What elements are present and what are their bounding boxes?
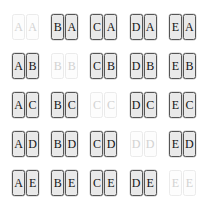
grid-cell-BC[interactable]: BC bbox=[45, 85, 84, 124]
tile-left[interactable]: C bbox=[90, 14, 103, 40]
grid-cell-EB[interactable]: EB bbox=[163, 46, 202, 85]
tile-pair: AB bbox=[12, 53, 39, 79]
tile-left[interactable]: E bbox=[169, 14, 182, 40]
tile-right[interactable]: A bbox=[65, 14, 78, 40]
grid-cell-DD: DD bbox=[124, 125, 163, 164]
tile-right[interactable]: C bbox=[26, 92, 39, 118]
grid-cell-BB: BB bbox=[45, 46, 84, 85]
tile-left[interactable]: B bbox=[51, 14, 64, 40]
tile-left: E bbox=[169, 170, 182, 196]
grid-cell-DC[interactable]: DC bbox=[124, 85, 163, 124]
tile-left[interactable]: A bbox=[12, 170, 25, 196]
grid-cell-DE[interactable]: DE bbox=[124, 164, 163, 203]
tile-right: C bbox=[104, 92, 117, 118]
tile-right[interactable]: A bbox=[144, 14, 157, 40]
tile-right[interactable]: D bbox=[183, 131, 196, 157]
tile-left[interactable]: C bbox=[90, 131, 103, 157]
grid-cell-BE[interactable]: BE bbox=[45, 164, 84, 203]
grid-cell-AB[interactable]: AB bbox=[6, 46, 45, 85]
tile-left[interactable]: A bbox=[12, 92, 25, 118]
tile-right[interactable]: E bbox=[104, 170, 117, 196]
tile-right: E bbox=[183, 170, 196, 196]
tile-pair: EA bbox=[169, 14, 196, 40]
grid-cell-CE[interactable]: CE bbox=[84, 164, 123, 203]
grid-cell-CA[interactable]: CA bbox=[84, 7, 123, 46]
tile-pair: CE bbox=[90, 170, 117, 196]
grid-cell-BD[interactable]: BD bbox=[45, 125, 84, 164]
tile-left[interactable]: A bbox=[12, 131, 25, 157]
grid-cell-CB[interactable]: CB bbox=[84, 46, 123, 85]
tile-right[interactable]: C bbox=[65, 92, 78, 118]
tile-pair: CC bbox=[90, 92, 117, 118]
tile-left[interactable]: C bbox=[90, 170, 103, 196]
tile-pair: BB bbox=[51, 53, 78, 79]
letter-pair-grid: AABACADAEAABBBCBDBEBACBCCCDCECADBDCDDDED… bbox=[0, 0, 208, 209]
tile-right: D bbox=[144, 131, 157, 157]
tile-right[interactable]: E bbox=[144, 170, 157, 196]
tile-right[interactable]: B bbox=[144, 53, 157, 79]
grid-cell-DA[interactable]: DA bbox=[124, 7, 163, 46]
tile-right[interactable]: C bbox=[144, 92, 157, 118]
grid-cell-AE[interactable]: AE bbox=[6, 164, 45, 203]
tile-pair: BA bbox=[51, 14, 78, 40]
tile-left[interactable]: A bbox=[12, 53, 25, 79]
tile-right[interactable]: E bbox=[26, 170, 39, 196]
grid-cell-CC: CC bbox=[84, 85, 123, 124]
grid-cell-EA[interactable]: EA bbox=[163, 7, 202, 46]
tile-pair: BC bbox=[51, 92, 78, 118]
tile-pair: DB bbox=[130, 53, 157, 79]
tile-right[interactable]: D bbox=[26, 131, 39, 157]
tile-left[interactable]: D bbox=[130, 14, 143, 40]
tile-right[interactable]: A bbox=[104, 14, 117, 40]
tile-pair: AD bbox=[12, 131, 39, 157]
tile-pair: DD bbox=[130, 131, 157, 157]
tile-pair: EC bbox=[169, 92, 196, 118]
tile-left[interactable]: C bbox=[90, 53, 103, 79]
tile-left[interactable]: B bbox=[51, 92, 64, 118]
grid-cell-DB[interactable]: DB bbox=[124, 46, 163, 85]
grid-cell-AD[interactable]: AD bbox=[6, 125, 45, 164]
grid-cell-CD[interactable]: CD bbox=[84, 125, 123, 164]
tile-right[interactable]: C bbox=[183, 92, 196, 118]
tile-left[interactable]: B bbox=[51, 170, 64, 196]
tile-pair: EE bbox=[169, 170, 196, 196]
tile-left: A bbox=[12, 14, 25, 40]
grid-cell-AC[interactable]: AC bbox=[6, 85, 45, 124]
tile-pair: AE bbox=[12, 170, 39, 196]
tile-right[interactable]: B bbox=[26, 53, 39, 79]
tile-right[interactable]: E bbox=[65, 170, 78, 196]
tile-left: D bbox=[130, 131, 143, 157]
tile-left: B bbox=[51, 53, 64, 79]
tile-right[interactable]: B bbox=[104, 53, 117, 79]
tile-right: B bbox=[65, 53, 78, 79]
tile-pair: CA bbox=[90, 14, 117, 40]
tile-left[interactable]: D bbox=[130, 92, 143, 118]
tile-right[interactable]: A bbox=[183, 14, 196, 40]
tile-right[interactable]: D bbox=[104, 131, 117, 157]
tile-pair: CB bbox=[90, 53, 117, 79]
tile-left[interactable]: D bbox=[130, 53, 143, 79]
tile-pair: BE bbox=[51, 170, 78, 196]
tile-left[interactable]: E bbox=[169, 131, 182, 157]
grid-cell-ED[interactable]: ED bbox=[163, 125, 202, 164]
tile-pair: AC bbox=[12, 92, 39, 118]
tile-left[interactable]: B bbox=[51, 131, 64, 157]
grid-cell-EC[interactable]: EC bbox=[163, 85, 202, 124]
tile-left[interactable]: E bbox=[169, 92, 182, 118]
tile-right[interactable]: D bbox=[65, 131, 78, 157]
tile-right: A bbox=[26, 14, 39, 40]
tile-left: C bbox=[90, 92, 103, 118]
tile-pair: DE bbox=[130, 170, 157, 196]
grid-cell-BA[interactable]: BA bbox=[45, 7, 84, 46]
tile-pair: DA bbox=[130, 14, 157, 40]
grid-cell-EE: EE bbox=[163, 164, 202, 203]
tile-pair: BD bbox=[51, 131, 78, 157]
tile-pair: AA bbox=[12, 14, 39, 40]
tile-left[interactable]: E bbox=[169, 53, 182, 79]
tile-left[interactable]: D bbox=[130, 170, 143, 196]
tile-right[interactable]: B bbox=[183, 53, 196, 79]
tile-pair: ED bbox=[169, 131, 196, 157]
tile-pair: EB bbox=[169, 53, 196, 79]
tile-pair: DC bbox=[130, 92, 157, 118]
tile-pair: CD bbox=[90, 131, 117, 157]
